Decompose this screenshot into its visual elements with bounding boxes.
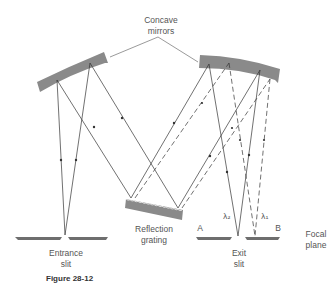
point-a-label: A <box>195 223 205 234</box>
lambda-1-label: λ₁ <box>261 212 268 221</box>
left-concave-mirror <box>37 52 108 92</box>
figure-caption: Figure 28-12 <box>46 274 93 283</box>
exit-slit-label: Exit slit <box>219 248 259 270</box>
exit-slit <box>196 237 280 240</box>
focal-plane-label: Focal plane <box>296 229 335 251</box>
concave-mirrors-label: Concave mirrors <box>131 15 191 37</box>
entrance-slit <box>15 237 108 240</box>
dashed-ray-arrows <box>201 102 265 141</box>
concave-mirrors-leader-lines <box>110 37 198 62</box>
reflection-grating-label: Reflection grating <box>120 224 188 246</box>
point-b-label: B <box>273 223 283 234</box>
ray-direction-arrows <box>60 117 250 173</box>
entrance-slit-label: Entrance slit <box>36 248 96 270</box>
lambda-2-label: λ₂ <box>223 212 230 221</box>
